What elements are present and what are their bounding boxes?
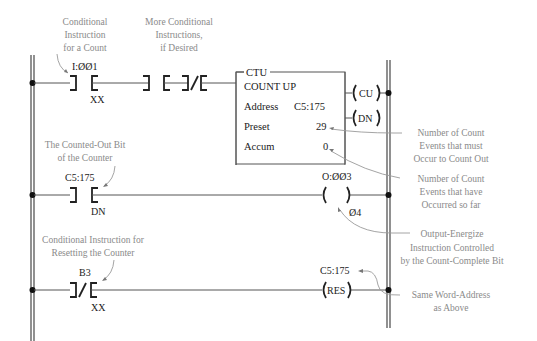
coil-bit: Ø4 [349, 207, 361, 218]
ctu-accum-value: 0 [323, 141, 328, 152]
ctu-preset-value: 29 [316, 121, 327, 132]
cu-label: CU [359, 88, 374, 99]
ctu-accum-label: Accum [244, 141, 274, 152]
svg-text:of the Counter: of the Counter [58, 153, 114, 163]
ctu-address-value: C5:175 [294, 101, 325, 112]
svg-text:Instruction Controlled: Instruction Controlled [410, 243, 494, 253]
annotation-preset: Number of Count Events that must Occur t… [329, 127, 489, 164]
contact-bit: XX [91, 302, 106, 313]
rung-junction-dot [386, 192, 392, 198]
svg-text:by the Count-Complete Bit: by the Count-Complete Bit [400, 256, 504, 266]
svg-text:Conditional: Conditional [63, 17, 108, 27]
dn-label: DN [358, 113, 372, 124]
svg-text:as Above: as Above [433, 303, 468, 313]
contact-address: I:ØØ1 [72, 61, 98, 72]
ctu-preset-label: Preset [244, 121, 270, 132]
ctu-title: COUNT UP [244, 81, 296, 92]
svg-text:Instructions,: Instructions, [155, 30, 202, 40]
svg-text:Number of Count: Number of Count [417, 128, 484, 138]
svg-text:Resetting the Counter: Resetting the Counter [52, 248, 136, 258]
svg-text:Number of Count: Number of Count [417, 174, 484, 184]
annotation-same-address: Same Word-Address as Above [358, 269, 491, 313]
ladder-diagram: I:ØØ1 XX CTU COUNT UP Address C5:175 Pre… [0, 0, 537, 341]
rung-junction-dot [386, 90, 392, 96]
ctu-cu-output[interactable]: CU [354, 85, 380, 101]
svg-text:Occur to Count Out: Occur to Count Out [413, 154, 489, 164]
svg-text:Same Word-Address: Same Word-Address [412, 290, 491, 300]
coil-address: C5:175 [320, 265, 349, 276]
reset-coil-c5175[interactable]: RES [324, 282, 351, 298]
ctu-tag: CTU [246, 67, 267, 78]
svg-text:for a Count: for a Count [63, 43, 107, 53]
rung-junction-dot [386, 287, 392, 293]
svg-text:Output-Energize: Output-Energize [420, 229, 483, 239]
svg-text:More Conditional: More Conditional [145, 17, 213, 27]
annotation-more-cond: More Conditional Instructions, if Desire… [145, 17, 213, 53]
coil-address: O:ØØ3 [322, 171, 351, 182]
contact-bit: DN [91, 206, 105, 217]
rung-1: I:ØØ1 XX CTU COUNT UP Address C5:175 Pre… [30, 17, 489, 210]
svg-text:Conditional Instruction for: Conditional Instruction for [42, 235, 145, 245]
svg-text:Occurred so far: Occurred so far [421, 200, 481, 210]
res-label: RES [327, 285, 345, 296]
ctu-address-label: Address [244, 101, 278, 112]
contact-bit: XX [90, 94, 105, 105]
contact-address: B3 [79, 267, 91, 278]
svg-text:Events that must: Events that must [419, 141, 483, 151]
contact-address: C5:175 [65, 172, 94, 183]
svg-text:The Counted-Out Bit: The Counted-Out Bit [45, 140, 126, 150]
annotation-reset-cond: Conditional Instruction for Resetting th… [42, 235, 145, 281]
svg-text:Events that have: Events that have [420, 187, 483, 197]
svg-text:if Desired: if Desired [160, 43, 198, 53]
annotation-output: Output-Energize Instruction Controlled b… [338, 207, 504, 266]
ctu-dn-output[interactable]: DN [354, 110, 380, 126]
svg-text:Instruction: Instruction [64, 30, 105, 40]
